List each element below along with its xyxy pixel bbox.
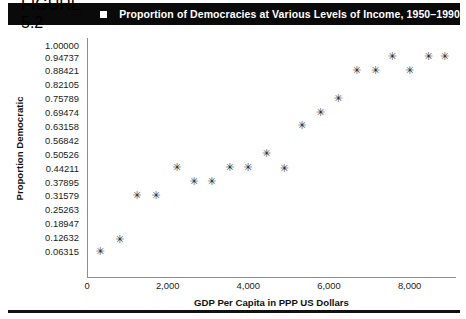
data-point-marker: ✳ <box>388 52 397 61</box>
y-tick-label: 0.94737 <box>45 51 79 62</box>
y-axis-ticks: 1.000000.947370.884210.821050.757890.694… <box>0 38 83 278</box>
data-point-marker: ✳ <box>371 66 380 75</box>
data-point-marker: ✳ <box>262 149 271 158</box>
y-tick-label: 0.82105 <box>45 79 79 90</box>
bottom-rule <box>8 310 460 313</box>
y-tick-label: 0.50526 <box>45 148 79 159</box>
data-point-marker: ✳ <box>352 66 361 75</box>
x-tick-label: 4,000 <box>237 280 260 291</box>
data-point-marker: ✳ <box>96 247 105 256</box>
y-tick-label: 0.06315 <box>45 246 79 257</box>
data-point-marker: ✳ <box>316 108 325 117</box>
figure-header: FIGURE 5.2 Proportion of Democracies at … <box>8 3 460 25</box>
square-bullet-icon <box>100 11 107 18</box>
chart-container: Proportion Democratic 1.000000.947370.88… <box>0 25 466 319</box>
data-point-marker: ✳ <box>151 191 160 200</box>
figure-title: Proportion of Democracies at Various Lev… <box>119 8 460 20</box>
y-tick-label: 0.37895 <box>45 176 79 187</box>
y-tick-label: 0.63158 <box>45 121 79 132</box>
data-point-marker: ✳ <box>424 52 433 61</box>
y-tick-label: 0.31579 <box>45 190 79 201</box>
y-tick-label: 0.88421 <box>45 65 79 76</box>
x-axis-ticks: 02,0004,0006,0008,000 <box>87 280 456 296</box>
data-point-marker: ✳ <box>225 163 234 172</box>
data-point-marker: ✳ <box>297 121 306 130</box>
y-tick-label: 0.25263 <box>45 204 79 215</box>
y-tick-label: 0.18947 <box>45 218 79 229</box>
data-point-marker: ✳ <box>172 163 181 172</box>
data-point-marker: ✳ <box>189 177 198 186</box>
x-tick-label: 8,000 <box>398 280 421 291</box>
x-tick-label: 6,000 <box>317 280 340 291</box>
data-point-marker: ✳ <box>334 94 343 103</box>
y-tick-label: 0.69474 <box>45 107 79 118</box>
y-tick-label: 0.56842 <box>45 134 79 145</box>
data-point-marker: ✳ <box>405 66 414 75</box>
x-tick-label: 0 <box>84 280 89 291</box>
data-point-marker: ✳ <box>279 164 288 173</box>
data-point-marker: ✳ <box>132 191 141 200</box>
x-axis-title: GDP Per Capita in PPP US Dollars <box>87 297 456 308</box>
y-tick-label: 0.44211 <box>46 162 79 173</box>
data-point-marker: ✳ <box>440 52 449 61</box>
y-tick-label: 0.75789 <box>45 93 79 104</box>
data-point-marker: ✳ <box>115 235 124 244</box>
x-tick-label: 2,000 <box>156 280 179 291</box>
data-point-marker: ✳ <box>207 177 216 186</box>
plot-area: ✳✳✳✳✳✳✳✳✳✳✳✳✳✳✳✳✳✳✳✳ <box>87 38 456 278</box>
data-point-marker: ✳ <box>243 163 252 172</box>
y-tick-label: 1.00000 <box>45 40 79 51</box>
y-tick-label: 0.12632 <box>45 232 79 243</box>
